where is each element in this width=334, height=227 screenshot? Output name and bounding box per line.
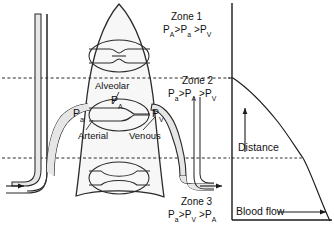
zone2-eq-sub-3: V [212,95,217,102]
zone1-title: Zone 1 [171,12,202,23]
zone2-eq-sub-2: A [191,95,196,102]
zone3-eq-sub-3: A [212,216,217,223]
arterial-label: Arterial [78,131,108,141]
arterial-pressure-symbol: Pa [73,108,84,119]
venous-pressure-symbol: PV [152,108,164,119]
zone2-eq-term-3: PV [205,88,216,99]
distance-axis-label: Distance [238,142,279,153]
zone2-eq-term-1: Pa [168,88,179,99]
zone1-eq-term-2: Pa [180,24,191,35]
alveolar-label: Alveolar [95,81,129,91]
zone3-eq-term-1: Pa [168,209,179,220]
zone2-equation: Pa>PA >PV [168,89,216,100]
zone2-eq-sub-1: a [175,95,179,102]
zone3-eq-op-2: > [196,209,205,220]
venous-pressure-subscript: V [159,116,164,124]
zone1-equation: PA>Pa >PV [163,25,211,36]
zone3-eq-sub-2: V [191,216,196,223]
alveolar-pressure-subscript: A [118,103,123,111]
arterial-vessel [6,14,47,193]
zone1-eq-sub-3: V [207,31,212,38]
alveolar-pressure-symbol: PA [111,95,123,106]
zone2-eq-op-1: > [179,88,185,99]
zone3-equation: Pa>PV >PA [168,210,216,221]
zone1-eq-term-1: PA [163,24,174,35]
zone3-eq-op-1: > [179,209,185,220]
arterial-pressure-subscript: a [80,116,84,124]
zone1-eq-term-3: PV [200,24,211,35]
zone2-eq-op-2: > [196,88,205,99]
zone1-eq-sub-2: a [187,31,191,38]
west-lung-zones-figure: Zone 1 PA>Pa >PV Zone 2 Pa>PA >PV Zone 3… [0,0,334,227]
zone2-title: Zone 2 [182,76,213,87]
zone3-title: Zone 3 [181,197,212,208]
zone3-eq-term-3: PA [205,209,216,220]
graph-axes [232,3,332,220]
zone3-eq-sub-1: a [175,216,179,223]
zone1-eq-op-2: > [191,24,200,35]
zone2-eq-term-2: PA [185,88,196,99]
venous-label: Venous [129,131,161,141]
zone3-eq-term-2: PV [185,209,196,220]
zone1-eq-sub-1: A [170,31,175,38]
blood-flow-axis-label: Blood flow [236,206,284,217]
